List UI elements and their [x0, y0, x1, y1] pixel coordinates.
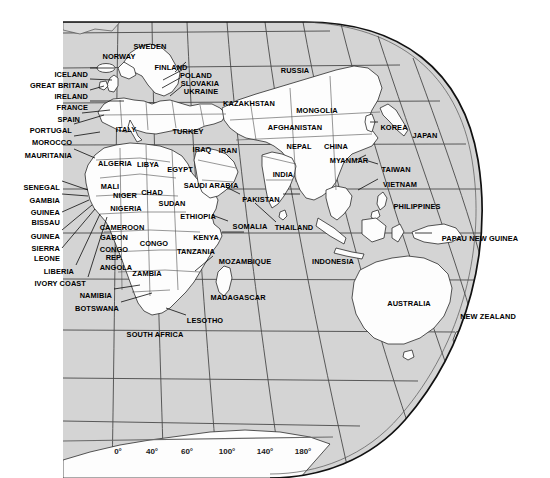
map-label-leone: LEONE	[34, 255, 60, 263]
map-label-liberia: LIBERIA	[44, 268, 74, 276]
map-label-saudi-arabia: SAUDI ARABIA	[184, 182, 239, 190]
axis-tick-0deg: 0°	[114, 447, 122, 456]
map-label-sierra: SIERRA	[31, 245, 60, 253]
axis-tick-100deg: 100°	[219, 447, 236, 456]
map-label-ukraine: UKRAINE	[184, 88, 218, 96]
map-label-italy: ITALY	[116, 126, 137, 134]
map-label-bissau: BISSAU	[31, 219, 60, 227]
axis-tick-180deg: 180°	[295, 447, 312, 456]
map-label-angola: ANGOLA	[100, 264, 133, 272]
map-label-gabon: GABON	[100, 234, 128, 242]
map-label-senegal: SENEGAL	[24, 184, 60, 192]
map-label-congo-rep2: REP.	[106, 254, 123, 262]
map-label-mongolia: MONGOLIA	[296, 107, 337, 115]
map-label-vietnam: VIETNAM	[383, 181, 417, 189]
map-label-russia: RUSSIA	[281, 67, 310, 75]
map-label-philippines: PHILIPPINES	[393, 203, 440, 211]
map-label-great-britain: GREAT BRITAIN	[30, 82, 88, 90]
map-label-nigeria: NIGERIA	[110, 205, 142, 213]
map-label-iran: IRAN	[219, 147, 237, 155]
map-label-pakistan: PAKISTAN	[242, 196, 279, 204]
map-label-zambia: ZAMBIA	[132, 270, 161, 278]
map-label-afghanistan: AFGHANISTAN	[268, 124, 322, 132]
map-label-tanzania: TANZANIA	[177, 248, 215, 256]
map-label-congo: CONGO	[140, 240, 168, 248]
map-label-guinea2: GUINEA	[31, 233, 60, 241]
map-label-ivory-coast: IVORY COAST	[34, 280, 86, 288]
axis-tick-40deg: 40°	[146, 447, 158, 456]
map-label-gambia: GAMBIA	[29, 197, 60, 205]
map-label-mauritania: MAURITANIA	[25, 152, 72, 160]
map-label-taiwan: TAIWAN	[381, 166, 410, 174]
map-label-cameroon: CAMEROON	[100, 224, 145, 232]
map-label-egypt: EGYPT	[167, 166, 193, 174]
map-label-chad: CHAD	[141, 189, 163, 197]
map-label-mozambique: MOZAMBIQUE	[219, 258, 271, 266]
map-label-somalia: SOMALIA	[233, 223, 268, 231]
map-label-portugal: PORTUGAL	[30, 127, 72, 135]
map-label-niger: NIGER	[113, 192, 137, 200]
map-label-myanmar: MYANMAR	[330, 157, 369, 165]
map-label-south-africa: SOUTH AFRICA	[127, 331, 184, 339]
map-label-namibia: NAMIBIA	[80, 292, 112, 300]
map-label-guinea: GUINEA	[31, 209, 60, 217]
map-label-sudan: SUDAN	[159, 200, 186, 208]
axis-tick-60deg: 60°	[181, 447, 193, 456]
map-label-new-zealand: NEW ZEALAND	[460, 313, 516, 321]
map-label-botswana: BOTSWANA	[75, 305, 119, 313]
map-label-lesotho: LESOTHO	[187, 317, 223, 325]
map-label-thailand: THAILAND	[275, 224, 314, 232]
map-label-kazakhstan: KAZAKHSTAN	[223, 100, 275, 108]
map-label-ethiopia: ETHIOPIA	[180, 213, 216, 221]
map-label-japan: JAPAN	[412, 132, 437, 140]
map-label-morocco: MOROCCO	[32, 139, 72, 147]
map-label-spain: SPAIN	[57, 116, 80, 124]
map-label-australia: AUSTRALIA	[387, 300, 431, 308]
map-label-iraq: IRAQ	[193, 146, 212, 154]
map-label-kenya: KENYA	[193, 234, 219, 242]
map-label-norway: NORWAY	[102, 53, 135, 61]
world-map-figure: SWEDENNORWAYFINLANDPOLANDSLOVAKIAUKRAINE…	[0, 0, 550, 478]
map-label-india: INDIA	[273, 171, 294, 179]
map-label-korea: KOREA	[380, 124, 407, 132]
map-label-sweden: SWEDEN	[133, 43, 166, 51]
map-label-china: CHINA	[324, 143, 348, 151]
map-label-indonesia: INDONESIA	[312, 258, 354, 266]
map-label-ireland: IRELAND	[54, 93, 88, 101]
map-label-turkey: TURKEY	[173, 128, 204, 136]
map-label-madagascar: MADAGASCAR	[210, 294, 265, 302]
axis-tick-140deg: 140°	[257, 447, 274, 456]
map-label-iceland: ICELAND	[54, 71, 88, 79]
map-label-algeria: ALGERIA	[98, 160, 132, 168]
map-label-france: FRANCE	[57, 104, 88, 112]
map-label-nepal: NEPAL	[287, 143, 312, 151]
map-label-papau-new-guinea: PAPAU NEW GUINEA	[442, 235, 518, 243]
map-label-libya: LIBYA	[137, 161, 159, 169]
